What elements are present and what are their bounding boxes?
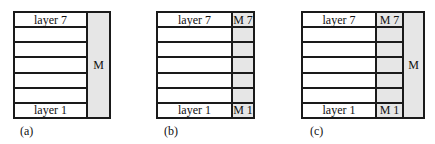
shared-memory-block: M: [86, 13, 109, 117]
layer-stack: layer 7 layer 1: [15, 13, 86, 117]
layer-row-2: [303, 89, 375, 104]
layer-row-1: layer 1: [15, 104, 86, 117]
layer-row-5: [303, 43, 375, 58]
memory-row-2: [233, 89, 253, 104]
per-layer-memory-column: M 7 M 1: [231, 13, 253, 117]
memory-row-4: [233, 58, 253, 73]
memory-row-5: [377, 43, 402, 58]
shared-memory-block: M: [402, 13, 423, 117]
layer-row-2: [158, 89, 231, 104]
layer-row-6: [303, 28, 375, 43]
layer-row-3: [15, 74, 86, 89]
memory-row-7: M 7: [233, 13, 253, 28]
memory-row-4: [377, 58, 402, 73]
layer-row-6: [15, 28, 86, 43]
layer-row-1: layer 1: [158, 104, 231, 117]
panel-b-grid: layer 7 layer 1 M 7 M 1: [156, 11, 255, 119]
layer-row-2: [15, 89, 86, 104]
memory-row-2: [377, 89, 402, 104]
layer-row-3: [303, 74, 375, 89]
memory-row-3: [377, 74, 402, 89]
panel-b: layer 7 layer 1 M 7 M 1: [156, 11, 255, 119]
layer-row-7: layer 7: [158, 13, 231, 28]
layer-row-4: [158, 58, 231, 73]
memory-row-1: M 1: [233, 104, 253, 117]
layer-stack: layer 7 layer 1: [303, 13, 375, 117]
memory-row-6: [377, 28, 402, 43]
memory-row-7: M 7: [377, 13, 402, 28]
memory-row-3: [233, 74, 253, 89]
panel-c-grid: layer 7 layer 1 M 7 M 1 M: [301, 11, 425, 119]
panel-a-grid: layer 7 layer 1 M: [13, 11, 111, 119]
caption-a: (a): [20, 124, 33, 139]
layer-row-1: layer 1: [303, 104, 375, 117]
layer-stack: layer 7 layer 1: [158, 13, 231, 117]
layer-row-7: layer 7: [15, 13, 86, 28]
panel-c: layer 7 layer 1 M 7 M 1 M: [301, 11, 425, 119]
memory-row-6: [233, 28, 253, 43]
memory-row-1: M 1: [377, 104, 402, 117]
layer-row-7: layer 7: [303, 13, 375, 28]
layer-row-4: [15, 58, 86, 73]
memory-row-5: [233, 43, 253, 58]
layer-row-5: [15, 43, 86, 58]
layer-row-3: [158, 74, 231, 89]
caption-c: (c): [310, 124, 323, 139]
panel-a: layer 7 layer 1 M: [13, 11, 111, 119]
layer-row-5: [158, 43, 231, 58]
caption-b: (b): [164, 124, 178, 139]
layer-row-4: [303, 58, 375, 73]
per-layer-memory-column: M 7 M 1: [375, 13, 402, 117]
layer-row-6: [158, 28, 231, 43]
